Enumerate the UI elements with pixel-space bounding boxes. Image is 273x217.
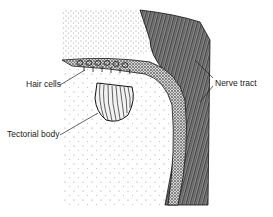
label-tectorial-body: Tectorial body (7, 130, 59, 139)
label-nerve-tract: Nerve tract (215, 79, 257, 88)
anatomical-diagram (0, 0, 273, 217)
label-hair-cells: Hair cells (26, 80, 61, 89)
